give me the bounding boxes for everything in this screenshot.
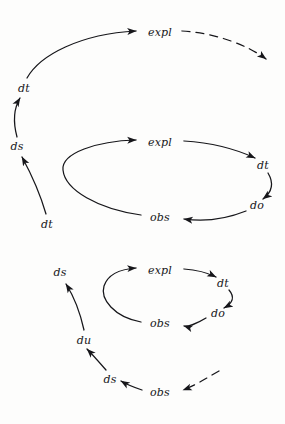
edge-ds-to-du: [87, 349, 106, 370]
edge-expl-to-dt-2: [184, 141, 255, 158]
node-label-dt-3: dt: [41, 218, 53, 231]
edge-obs-to-expl-3: [103, 268, 141, 322]
node-label-obs-3: obs: [150, 386, 170, 399]
edge-dt-to-ds-2: [22, 157, 46, 214]
diagram-canvas: [0, 0, 285, 424]
edge-ds-to-dt-1: [15, 98, 20, 137]
edge-du-to-ds-3: [66, 284, 84, 330]
edge-do-to-obs-2: [184, 211, 246, 220]
node-label-expl-3: expl: [148, 264, 172, 277]
spiral-cycle-diagram: dt expl ds expl dt do obs dt ds expl dt …: [0, 0, 285, 424]
edge-dt-to-do-3: [224, 290, 232, 308]
edge-expl-to-dt-3: [184, 269, 216, 277]
node-label-do-1: do: [250, 199, 264, 212]
node-label-ds-1: ds: [10, 140, 23, 153]
edge-open-to-obs-dashed: [183, 371, 219, 390]
edge-dt-to-expl-1: [27, 31, 136, 78]
node-label-ds-3: ds: [103, 373, 116, 386]
edge-do-to-obs-3: [184, 318, 206, 326]
node-label-expl-2: expl: [148, 136, 172, 149]
node-label-do-2: do: [211, 307, 225, 320]
node-label-du: du: [77, 334, 92, 347]
node-label-obs-1: obs: [150, 211, 170, 224]
node-label-obs-2: obs: [150, 317, 170, 330]
node-label-dt-1: dt: [18, 82, 30, 95]
node-label-dt-4: dt: [217, 277, 229, 290]
edge-expl-to-open-dashed: [182, 31, 266, 59]
node-label-ds-2: ds: [53, 266, 66, 279]
edge-obs-to-expl-2: [63, 140, 141, 215]
node-label-expl-1: expl: [148, 26, 172, 39]
node-label-dt-2: dt: [257, 159, 269, 172]
edge-obs-to-ds-4: [121, 381, 142, 390]
edge-dt-to-do-2: [263, 173, 271, 199]
